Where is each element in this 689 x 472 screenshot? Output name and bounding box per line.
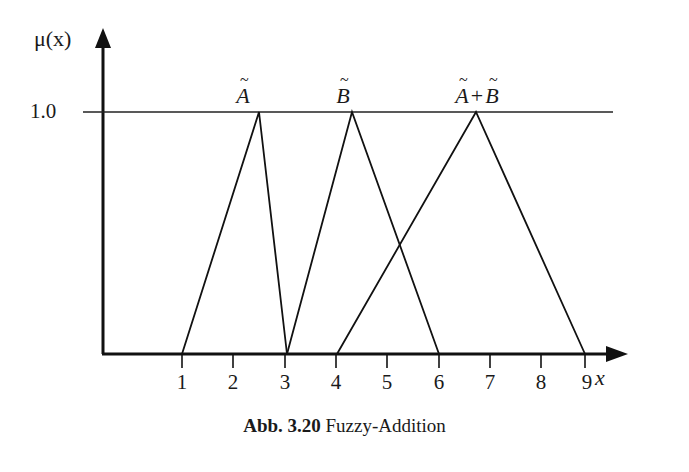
x-axis-label: x [595, 367, 605, 389]
fuzzy-addition-figure: μ(x) 1.0 1 2 3 4 5 6 7 8 9 x A B A+B Abb… [0, 0, 689, 472]
series-b-triangle [287, 112, 439, 354]
x-tick-label: 4 [331, 372, 342, 393]
y-axis-label: μ(x) [34, 28, 71, 50]
x-ticks [182, 354, 585, 368]
series-sum-triangle [337, 112, 585, 354]
x-tick-label: 1 [177, 372, 188, 393]
x-tick-label: 3 [280, 372, 291, 393]
tilde-sum-b: B [485, 85, 498, 107]
tilde-b: B [336, 85, 349, 107]
series-sum-label: A+B [455, 85, 498, 107]
tilde-a: A [236, 85, 249, 107]
series-a-label: A [236, 85, 249, 107]
caption-text: Fuzzy-Addition [326, 415, 446, 436]
x-tick-label: 7 [485, 372, 496, 393]
series-a-triangle [182, 112, 287, 354]
x-tick-label: 8 [536, 372, 547, 393]
plus-sign: + [469, 83, 485, 108]
x-axis-arrow-icon [606, 346, 628, 362]
x-tick-label: 5 [382, 372, 393, 393]
x-tick-label: 6 [434, 372, 445, 393]
series-b-label: B [336, 85, 349, 107]
y-tick-label: 1.0 [30, 101, 56, 122]
tilde-sum-a: A [455, 85, 468, 107]
x-tick-label: 9 [582, 372, 593, 393]
figure-caption: Abb. 3.20 Fuzzy-Addition [0, 416, 689, 435]
x-tick-label: 2 [228, 372, 239, 393]
y-axis-arrow-icon [95, 28, 111, 48]
caption-prefix: Abb. 3.20 [243, 415, 321, 436]
